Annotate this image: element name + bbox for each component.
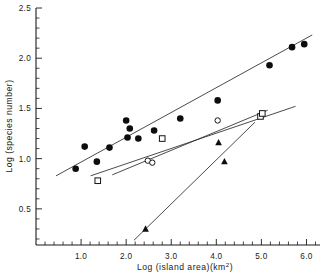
point-filled-triangle bbox=[215, 139, 222, 145]
x-axis-tick-labels: 1.02.03.04.05.06.0 bbox=[75, 252, 313, 261]
trend-line-filled-triangle bbox=[134, 122, 254, 239]
point-open-square bbox=[159, 136, 165, 142]
data-points bbox=[72, 41, 307, 232]
point-filled-circle bbox=[301, 41, 308, 48]
point-open-square bbox=[259, 111, 265, 117]
x-axis-title: Log (island area)(km2) bbox=[137, 261, 233, 272]
trend-line-filled-circle bbox=[56, 35, 312, 176]
x-tick-label: 2.0 bbox=[120, 252, 132, 261]
y-tick-label: 0.5 bbox=[19, 205, 31, 214]
y-tick-label: 2.0 bbox=[19, 54, 31, 63]
x-tick-label: 1.0 bbox=[75, 252, 87, 261]
x-tick-label: 5.0 bbox=[255, 252, 267, 261]
y-tick-label: 2.5 bbox=[19, 4, 31, 13]
species-area-scatter-plot: 1.02.03.04.05.06.0 0.51.01.52.02.5 Log (… bbox=[0, 0, 332, 277]
point-filled-circle bbox=[214, 97, 221, 104]
y-tick-label: 1.5 bbox=[19, 104, 31, 113]
x-tick-label: 3.0 bbox=[165, 252, 177, 261]
axes bbox=[36, 8, 320, 245]
y-axis-title: Log (species number) bbox=[4, 79, 14, 172]
point-filled-circle bbox=[72, 165, 79, 172]
x-tick-label: 4.0 bbox=[210, 252, 222, 261]
y-axis-ticks bbox=[36, 8, 42, 239]
point-filled-circle bbox=[289, 44, 296, 51]
point-open-circle bbox=[215, 118, 220, 123]
point-filled-circle bbox=[106, 144, 113, 151]
figure-container: 1.02.03.04.05.06.0 0.51.01.52.02.5 Log (… bbox=[0, 0, 332, 277]
y-tick-label: 1.0 bbox=[19, 155, 31, 164]
point-filled-circle bbox=[123, 117, 130, 124]
trend-line-open-circle bbox=[113, 110, 268, 174]
x-tick-label: 6.0 bbox=[300, 252, 312, 261]
x-axis-ticks bbox=[45, 239, 315, 245]
point-filled-circle bbox=[266, 62, 273, 69]
point-filled-circle bbox=[81, 143, 88, 150]
point-filled-circle bbox=[124, 134, 131, 141]
point-filled-triangle bbox=[221, 158, 228, 164]
point-open-circle bbox=[150, 160, 155, 165]
point-filled-circle bbox=[94, 158, 101, 165]
point-filled-circle bbox=[151, 127, 158, 134]
point-filled-circle bbox=[177, 115, 184, 122]
trend-lines bbox=[56, 35, 312, 240]
point-filled-circle bbox=[126, 125, 133, 132]
point-open-square bbox=[95, 178, 101, 184]
point-filled-circle bbox=[135, 135, 142, 142]
y-axis-tick-labels: 0.51.01.52.02.5 bbox=[19, 4, 31, 214]
